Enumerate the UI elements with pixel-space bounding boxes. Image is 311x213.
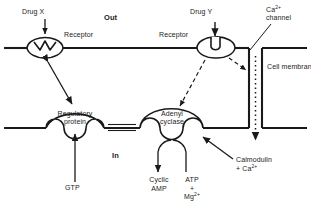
receptor-regulatory-arrow [48,62,72,104]
adenyl-cyclase-label: Adenyl cyclase [146,110,198,126]
left-receptor-label: Receptor [64,31,93,39]
regulatory-protein-label: Regulatory protein [49,110,101,126]
drug-y-label: Drug Y [190,8,212,16]
atp-line [173,140,186,172]
receptor-channel-dashed-arrow [229,58,246,70]
calcium-channel-label: Ca2+ channel [266,6,291,22]
channel-leader-line [250,24,271,50]
drug-x-label: Drug X [22,8,44,16]
inside-label: In [112,152,119,160]
cyclic-amp-label: Cyclic AMP [140,176,178,193]
right-receptor-shape [197,37,235,58]
cell-membrane-label: Cell membrane [267,62,311,71]
calmodulin-label: Calmodulin + Ca2+ [236,155,272,173]
right-receptor-label: Receptor [159,31,188,39]
camp-arrow [158,140,171,172]
left-receptor-shape [27,38,63,58]
receptor-cyclase-dashed-arrow [180,60,205,106]
outside-label: Out [104,14,117,22]
gtp-label: GTP [65,184,80,192]
diagram-canvas: Drug X Out Drug Y Receptor Receptor Ca2+… [0,0,311,213]
calmodulin-arrow [203,137,233,159]
atp-label: ATP + Mg2+ [176,176,208,202]
